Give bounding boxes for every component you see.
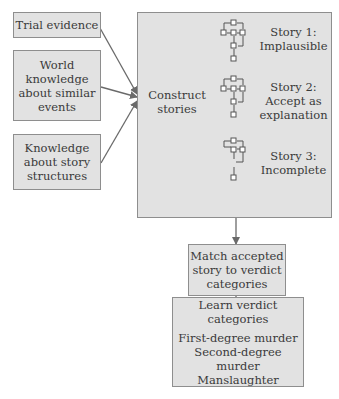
story-2-label: Story 2: Accept as explanation	[256, 80, 331, 122]
category-first-degree: First-degree murder	[178, 331, 297, 345]
construct-stories-box: Construct stories Story 1: Implausible S…	[137, 12, 332, 218]
category-manslaughter: Manslaughter	[197, 373, 279, 387]
story-2-graph-icon	[218, 75, 248, 127]
trial-evidence-box: Trial evidence	[13, 12, 101, 38]
story-structures-box: Knowledge about story structures	[13, 134, 101, 190]
world-knowledge-box: World knowledge about similar events	[13, 50, 101, 121]
arrow-structure-to-construct	[101, 101, 137, 163]
story-1-label: Story 1: Implausible	[256, 25, 331, 53]
story-3-graph-icon	[220, 137, 250, 189]
learn-verdict-label: Learn verdict categories	[199, 298, 278, 326]
arrow-trial-to-construct	[100, 28, 137, 94]
story-1-graph-icon	[218, 19, 248, 69]
world-knowledge-label: World knowledge about similar events	[18, 58, 95, 114]
match-verdict-box: Match accepted story to verdict categori…	[188, 244, 286, 296]
story-3-label: Story 3: Incomplete	[256, 149, 331, 177]
learn-verdict-box: Learn verdict categories First-degree mu…	[172, 297, 304, 387]
category-second-degree: Second-degree murder	[173, 345, 303, 373]
story-structures-label: Knowledge about story structures	[24, 141, 90, 183]
construct-stories-label: Construct stories	[142, 88, 212, 116]
match-verdict-label: Match accepted story to verdict categori…	[190, 249, 283, 291]
trial-evidence-label: Trial evidence	[16, 18, 99, 32]
arrow-world-to-construct	[101, 87, 137, 97]
